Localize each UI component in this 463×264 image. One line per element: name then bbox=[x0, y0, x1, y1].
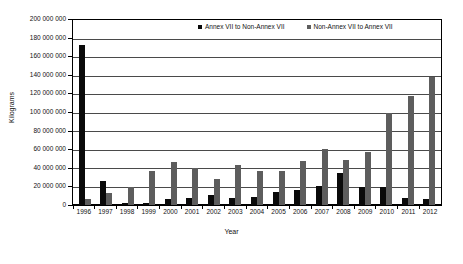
y-axis-tick-label: 120 000 000 bbox=[4, 89, 66, 96]
legend-swatch-icon-series-2 bbox=[307, 25, 311, 29]
x-axis-tick-labels: 1996199719981999200020012002200320042005… bbox=[72, 208, 442, 220]
bar-1999-series-2 bbox=[149, 171, 155, 205]
bar-2006-series-2 bbox=[300, 161, 306, 205]
x-axis-tick-label: 2010 bbox=[376, 208, 398, 220]
x-axis-tick-label: 2009 bbox=[354, 208, 376, 220]
bar-group bbox=[268, 20, 290, 205]
bar-group bbox=[160, 20, 182, 205]
bar-2008-series-2 bbox=[343, 160, 349, 205]
x-axis-tick-label: 2005 bbox=[268, 208, 290, 220]
x-axis-tick-label: 2006 bbox=[289, 208, 311, 220]
x-axis-tick-label: 2003 bbox=[224, 208, 246, 220]
bar-group bbox=[203, 20, 225, 205]
x-axis-tick-label: 1996 bbox=[73, 208, 95, 220]
x-axis-tick-label: 2002 bbox=[203, 208, 225, 220]
bar-2011-series-2 bbox=[408, 96, 414, 205]
y-axis-tick-label: 20 000 000 bbox=[4, 182, 66, 189]
bar-2003-series-2 bbox=[235, 165, 241, 205]
y-axis-tick-label: 80 000 000 bbox=[4, 127, 66, 134]
bar-groups bbox=[73, 20, 441, 205]
x-axis-tick-label: 2004 bbox=[246, 208, 268, 220]
bar-group bbox=[246, 20, 268, 205]
x-axis-tick-label: 1998 bbox=[116, 208, 138, 220]
legend-item-series-1: Annex VII to Non-Annex VII bbox=[198, 23, 285, 30]
legend-label-series-2: Non-Annex VII to Annex VII bbox=[314, 23, 393, 30]
bar-group bbox=[354, 20, 376, 205]
bar-group bbox=[225, 20, 247, 205]
bar-group bbox=[311, 20, 333, 205]
bar-2012-series-2 bbox=[429, 77, 435, 205]
bar-group bbox=[419, 20, 441, 205]
x-axis-title: Year bbox=[0, 228, 463, 235]
bar-1997-series-2 bbox=[106, 193, 112, 205]
bar-2009-series-2 bbox=[365, 152, 371, 205]
legend-label-series-1: Annex VII to Non-Annex VII bbox=[205, 23, 285, 30]
bar-2010-series-2 bbox=[386, 113, 392, 205]
bar-2000-series-2 bbox=[171, 162, 177, 205]
legend-swatch-icon-series-1 bbox=[198, 25, 202, 29]
x-axis-tick-label: 2008 bbox=[333, 208, 355, 220]
bar-group bbox=[96, 20, 118, 205]
bar-1996-series-1 bbox=[79, 45, 85, 205]
bar-2007-series-2 bbox=[322, 149, 328, 205]
bar-chart: Kilograms 200 000 000180 000 000160 000 … bbox=[0, 0, 463, 264]
y-axis-tick-label: 160 000 000 bbox=[4, 52, 66, 59]
bar-2002-series-2 bbox=[214, 179, 220, 205]
y-axis-tick-label: 0 bbox=[4, 201, 66, 208]
bar-group bbox=[332, 20, 354, 205]
bar-group bbox=[139, 20, 161, 205]
x-axis-tick-label: 1997 bbox=[95, 208, 117, 220]
bar-group bbox=[74, 20, 96, 205]
x-axis-tick-label: 1999 bbox=[138, 208, 160, 220]
bar-group bbox=[375, 20, 397, 205]
y-axis-tick-label: 40 000 000 bbox=[4, 164, 66, 171]
bar-2004-series-2 bbox=[257, 171, 263, 205]
bar-group bbox=[182, 20, 204, 205]
bar-2005-series-2 bbox=[279, 171, 285, 205]
bar-1996-series-2 bbox=[85, 199, 91, 205]
x-axis-tick-label: 2011 bbox=[398, 208, 420, 220]
chart-legend: Annex VII to Non-Annex VII Non-Annex VII… bbox=[195, 22, 396, 31]
bar-group bbox=[397, 20, 419, 205]
bar-group bbox=[117, 20, 139, 205]
y-axis-tick-label: 200 000 000 bbox=[4, 15, 66, 22]
y-axis-tick-label: 180 000 000 bbox=[4, 34, 66, 41]
y-axis-tick-label: 60 000 000 bbox=[4, 145, 66, 152]
plot-area bbox=[72, 19, 442, 206]
x-axis-tick-label: 2001 bbox=[181, 208, 203, 220]
x-axis-tick-label: 2007 bbox=[311, 208, 333, 220]
x-axis-tick-label: 2012 bbox=[419, 208, 441, 220]
bar-group bbox=[289, 20, 311, 205]
legend-item-series-2: Non-Annex VII to Annex VII bbox=[307, 23, 393, 30]
y-axis-tick-label: 140 000 000 bbox=[4, 71, 66, 78]
x-axis-tick-label: 2000 bbox=[160, 208, 182, 220]
y-axis-tick-label: 100 000 000 bbox=[4, 108, 66, 115]
bar-2001-series-2 bbox=[192, 168, 198, 205]
bar-1998-series-2 bbox=[128, 187, 134, 205]
